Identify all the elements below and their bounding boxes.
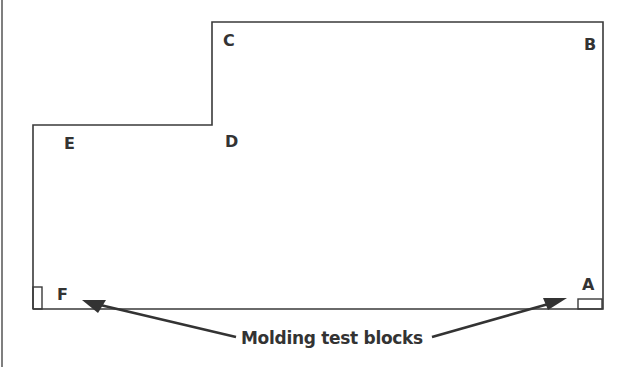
corner-label-c: C xyxy=(223,33,235,49)
molding-test-blocks-caption: Molding test blocks xyxy=(241,330,423,347)
corner-label-f: F xyxy=(57,287,68,303)
floor-plan-diagram xyxy=(0,0,634,367)
test-block-a xyxy=(578,299,602,309)
corner-label-a: A xyxy=(582,277,594,293)
test-block-f xyxy=(33,287,42,309)
arrow-right-shaft xyxy=(432,303,552,337)
corner-label-e: E xyxy=(64,136,75,152)
corner-label-b: B xyxy=(584,37,596,53)
room-outline xyxy=(33,22,603,309)
corner-label-d: D xyxy=(225,134,238,150)
